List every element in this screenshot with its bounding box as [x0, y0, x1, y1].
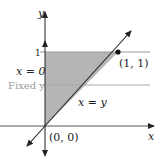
label-origin: (0, 0) — [49, 131, 79, 144]
label-x-equals-y: x = y — [78, 96, 107, 109]
label-point-1-1: (1, 1) — [119, 57, 149, 70]
y-axis-mid-arrow-icon — [42, 40, 48, 47]
label-fixed-y: Fixed y — [8, 80, 45, 91]
label-x-equals-0: x = 0 — [16, 65, 45, 78]
x-axis-label: x — [148, 130, 155, 143]
y-axis-down-arrow-icon — [42, 150, 48, 157]
y-axis-label: y — [37, 7, 45, 20]
y-tick-1: 1 — [35, 48, 41, 58]
point-1-1 — [115, 49, 120, 54]
region-diagram: y x 1 x = 0 Fixed y x = y (0, 0) (1, 1) — [0, 0, 158, 162]
shaded-region — [45, 52, 118, 126]
diagonal-line-extension — [27, 126, 45, 146]
